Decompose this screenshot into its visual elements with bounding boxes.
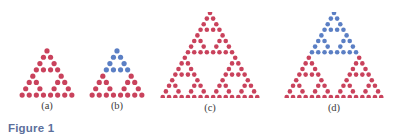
dot bbox=[223, 50, 228, 55]
dot bbox=[322, 95, 327, 98]
panel-c: (c) bbox=[158, 12, 262, 98]
dot bbox=[125, 67, 130, 72]
dot bbox=[297, 95, 302, 98]
dot bbox=[227, 67, 232, 72]
figure-caption: Figure 1 bbox=[8, 122, 54, 134]
dot bbox=[344, 78, 349, 83]
dot bbox=[167, 95, 172, 98]
dot bbox=[341, 50, 346, 55]
dot bbox=[319, 33, 324, 38]
dot bbox=[173, 72, 178, 77]
dot bbox=[354, 95, 359, 98]
dot bbox=[214, 89, 219, 94]
panel-b: (b) bbox=[86, 48, 148, 98]
dot bbox=[186, 72, 191, 77]
dot bbox=[236, 72, 241, 77]
dot bbox=[30, 74, 35, 79]
dot bbox=[338, 22, 343, 27]
sierpinski-triangle-d bbox=[282, 12, 386, 98]
panel-a: (a) bbox=[16, 48, 78, 98]
dot bbox=[347, 39, 352, 44]
dot bbox=[192, 84, 197, 89]
dot bbox=[223, 84, 228, 89]
dot bbox=[329, 95, 334, 98]
dot bbox=[139, 92, 144, 97]
dot bbox=[118, 67, 123, 72]
dot bbox=[329, 16, 334, 21]
dot bbox=[284, 95, 289, 98]
dot bbox=[214, 22, 219, 27]
dot bbox=[34, 67, 39, 72]
dot bbox=[297, 72, 302, 77]
dot bbox=[114, 48, 119, 53]
dot bbox=[201, 89, 206, 94]
dot bbox=[227, 44, 232, 49]
dot bbox=[366, 84, 371, 89]
dot bbox=[34, 92, 39, 97]
sierpinski-triangle-a bbox=[16, 48, 78, 98]
dot bbox=[173, 84, 178, 89]
dot bbox=[319, 78, 324, 83]
dot bbox=[186, 95, 191, 98]
panel-label-d: (d) bbox=[282, 102, 386, 114]
dot bbox=[325, 89, 330, 94]
dot bbox=[107, 86, 112, 91]
dot bbox=[379, 95, 384, 98]
dot bbox=[183, 56, 188, 61]
dot bbox=[373, 84, 378, 89]
dot bbox=[208, 12, 213, 15]
panel-d: (d) bbox=[282, 12, 386, 98]
dot bbox=[294, 78, 299, 83]
dot bbox=[52, 86, 57, 91]
dot bbox=[97, 80, 102, 85]
dot bbox=[249, 84, 254, 89]
dot bbox=[223, 95, 228, 98]
dot bbox=[122, 61, 127, 66]
dot bbox=[242, 95, 247, 98]
dot bbox=[335, 50, 340, 55]
dot bbox=[90, 92, 95, 97]
dot bbox=[354, 72, 359, 77]
dot bbox=[201, 22, 206, 27]
dot bbox=[179, 61, 184, 66]
dot bbox=[354, 50, 359, 55]
dot bbox=[230, 95, 235, 98]
dot bbox=[249, 95, 254, 98]
dot bbox=[335, 28, 340, 33]
sierpinski-triangle-b bbox=[86, 48, 148, 98]
dot bbox=[288, 89, 293, 94]
panel-label-b: (b) bbox=[86, 100, 148, 112]
dot bbox=[97, 92, 102, 97]
dot bbox=[242, 84, 247, 89]
dot bbox=[316, 39, 321, 44]
dot bbox=[310, 95, 315, 98]
dot bbox=[217, 28, 222, 33]
dot bbox=[325, 44, 330, 49]
dot bbox=[129, 74, 134, 79]
dot bbox=[55, 67, 60, 72]
dot bbox=[189, 44, 194, 49]
dot bbox=[205, 95, 210, 98]
dot bbox=[332, 12, 337, 15]
dot bbox=[322, 39, 327, 44]
dot bbox=[211, 28, 216, 33]
dot bbox=[242, 72, 247, 77]
dot bbox=[160, 95, 165, 98]
dot bbox=[198, 84, 203, 89]
dot bbox=[66, 86, 71, 91]
dot bbox=[217, 84, 222, 89]
dot bbox=[347, 50, 352, 55]
dot bbox=[291, 95, 296, 98]
dot bbox=[176, 89, 181, 94]
dot bbox=[37, 86, 42, 91]
dot bbox=[111, 67, 116, 72]
dot bbox=[201, 44, 206, 49]
dot bbox=[34, 80, 39, 85]
dot bbox=[211, 50, 216, 55]
dot bbox=[136, 86, 141, 91]
dot bbox=[220, 78, 225, 83]
figure-illustration: (a) (b) (c) (d) Figure 1 bbox=[0, 0, 412, 140]
dot bbox=[322, 50, 327, 55]
dot bbox=[303, 61, 308, 66]
dot bbox=[167, 84, 172, 89]
